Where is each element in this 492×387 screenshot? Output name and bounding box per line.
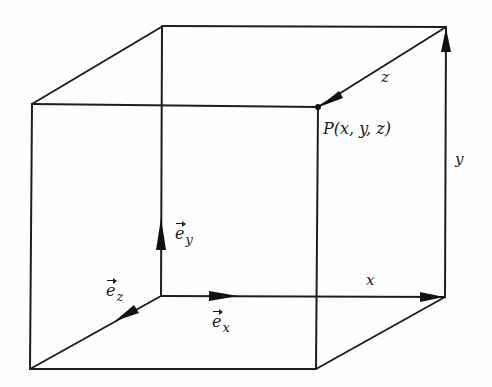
edge-bottom-left-depth (30, 296, 161, 369)
unit-vector-ez-sub: z (116, 289, 123, 304)
unit-vector-ey-sub: y (185, 232, 192, 247)
edge-back-top (163, 26, 446, 27)
unit-vector-ey-base: e (175, 226, 184, 242)
unit-vector-ey-label: ey (175, 226, 193, 242)
edge-top-left-depth (32, 26, 163, 104)
cube-coordinate-diagram (0, 0, 492, 387)
ez-arrowhead-icon (115, 305, 139, 321)
unit-vector-ex-sub: x (222, 320, 229, 335)
arrowheads (115, 28, 451, 321)
z-arrowhead-icon (319, 91, 343, 107)
y-component-label: y (455, 152, 463, 167)
ex-arrowhead-icon (209, 291, 238, 301)
edge-front-left (30, 104, 32, 369)
y-arrowhead-icon (441, 28, 451, 52)
edge-front-top (32, 104, 318, 107)
z-component-label: z (381, 70, 389, 85)
y-axis-line (445, 27, 446, 297)
x-component-label: x (366, 273, 374, 288)
unit-vector-ex-label: ex (212, 314, 230, 330)
edge-bottom-right-depth (316, 297, 445, 369)
point-p-marker (315, 104, 321, 110)
unit-vector-ex-base: e (212, 314, 221, 330)
edge-front-right (316, 107, 318, 369)
edge-back-left (161, 26, 162, 296)
x-axis-line (161, 296, 445, 297)
ey-arrowhead-icon (156, 218, 166, 250)
point-p-label: P(x, y, z) (323, 121, 391, 137)
unit-vector-ez-base: e (106, 283, 115, 299)
unit-vector-ez-label: ez (106, 283, 123, 299)
